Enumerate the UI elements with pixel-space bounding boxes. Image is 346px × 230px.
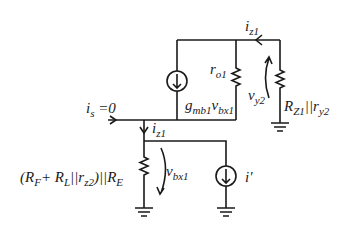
label-rz1: RZ1||ry2 (284, 99, 329, 117)
ground-icon-mid (217, 208, 235, 216)
label-vbx1: vbx1 (166, 164, 189, 182)
label-ro1: ro1 (210, 62, 227, 80)
label-iprime: i' (245, 170, 252, 185)
label-vy2: vy2 (248, 88, 265, 106)
label-gm: gmb1vbx1 (185, 98, 234, 116)
iprime-arrow-icon (222, 169, 230, 183)
vbx1-arrow-icon (157, 148, 166, 194)
rz1-resistor-icon (276, 40, 284, 123)
ground-icon-right (271, 123, 289, 131)
ground-icon-left (135, 208, 153, 216)
label-iz1-top: iz1 (245, 19, 259, 37)
label-req: (RF+ RL||rz2)||RE (20, 170, 123, 188)
source-arrow-icon (173, 74, 181, 88)
label-iz1-mid: iz1 (152, 121, 166, 139)
label-is: is =0 (86, 101, 116, 119)
vy2-arrow-icon (265, 57, 272, 98)
